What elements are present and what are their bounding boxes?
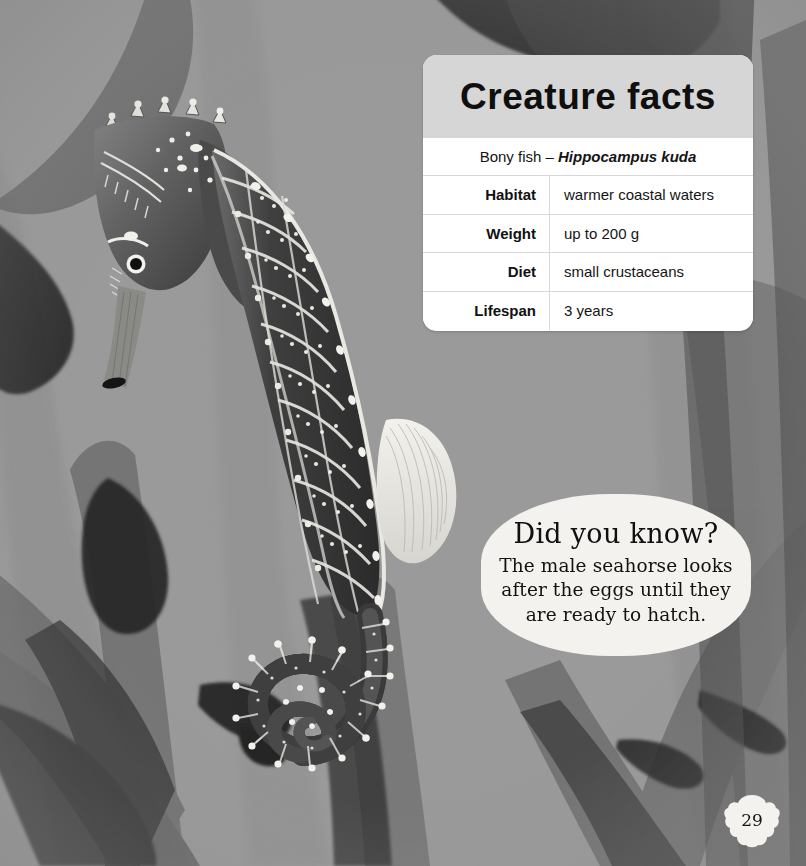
facts-subtitle-row: Bony fish – Hippocampus kuda bbox=[423, 138, 753, 176]
fact-value-weight: up to 200 g bbox=[550, 215, 753, 253]
did-you-know-body: The male seahorse looks after the eggs u… bbox=[499, 554, 732, 628]
fact-value-habitat: warmer coastal waters bbox=[550, 176, 753, 214]
fact-value-lifespan: 3 years bbox=[550, 292, 753, 331]
page-title: Creature facts bbox=[460, 78, 716, 115]
table-row: Weight up to 200 g bbox=[423, 215, 753, 254]
page-number-badge: 29 bbox=[723, 793, 781, 849]
table-row: Lifespan 3 years bbox=[423, 292, 753, 331]
did-you-know-line-2: after the eggs until they bbox=[499, 578, 732, 603]
fact-label-weight: Weight bbox=[423, 215, 550, 253]
did-you-know-bubble: Did you know? The male seahorse looks af… bbox=[481, 494, 751, 656]
did-you-know-heading: Did you know? bbox=[513, 520, 718, 548]
did-you-know-line-3: are ready to hatch. bbox=[499, 603, 732, 628]
book-page: Creature facts Bony fish – Hippocampus k… bbox=[0, 0, 806, 866]
fact-value-diet: small crustaceans bbox=[550, 253, 753, 291]
facts-subtitle: Bony fish – Hippocampus kuda bbox=[480, 148, 697, 165]
fact-label-habitat: Habitat bbox=[423, 176, 550, 214]
table-row: Diet small crustaceans bbox=[423, 253, 753, 292]
facts-subtitle-prefix: Bony fish – bbox=[480, 148, 558, 165]
facts-card-header: Creature facts bbox=[423, 55, 753, 138]
fact-label-diet: Diet bbox=[423, 253, 550, 291]
did-you-know-line-1: The male seahorse looks bbox=[499, 554, 732, 579]
fact-label-lifespan: Lifespan bbox=[423, 292, 550, 331]
scientific-name: Hippocampus kuda bbox=[558, 148, 696, 165]
page-number: 29 bbox=[723, 793, 781, 849]
creature-facts-card: Creature facts Bony fish – Hippocampus k… bbox=[423, 55, 753, 331]
table-row: Habitat warmer coastal waters bbox=[423, 176, 753, 215]
